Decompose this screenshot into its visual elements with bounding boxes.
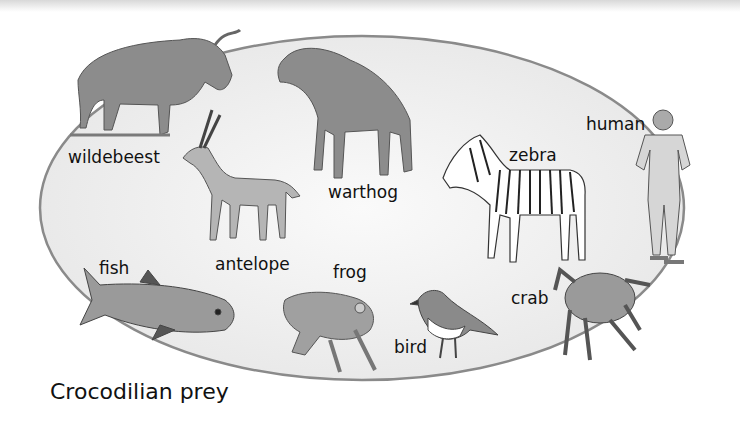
label-frog: frog [333, 262, 367, 282]
label-crab: crab [511, 288, 549, 308]
label-fish: fish [99, 258, 129, 278]
label-zebra: zebra [509, 145, 557, 165]
caption-title: Crocodilian prey [50, 379, 229, 404]
label-human: human [586, 114, 645, 134]
label-wildebeest: wildebeest [68, 147, 160, 167]
label-bird: bird [394, 337, 427, 357]
prey-illustration [0, 0, 740, 430]
label-warthog: warthog [328, 182, 398, 202]
label-antelope: antelope [215, 254, 290, 274]
